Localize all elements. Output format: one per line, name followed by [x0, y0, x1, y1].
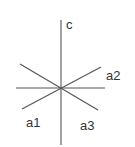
label-a1: a1: [26, 115, 40, 130]
a3-axis-line: [20, 64, 98, 110]
label-c: c: [66, 17, 73, 32]
label-a3: a3: [80, 118, 94, 133]
label-a2: a2: [106, 68, 120, 83]
crystal-axes-diagram: c a2 a1 a3: [0, 0, 135, 147]
